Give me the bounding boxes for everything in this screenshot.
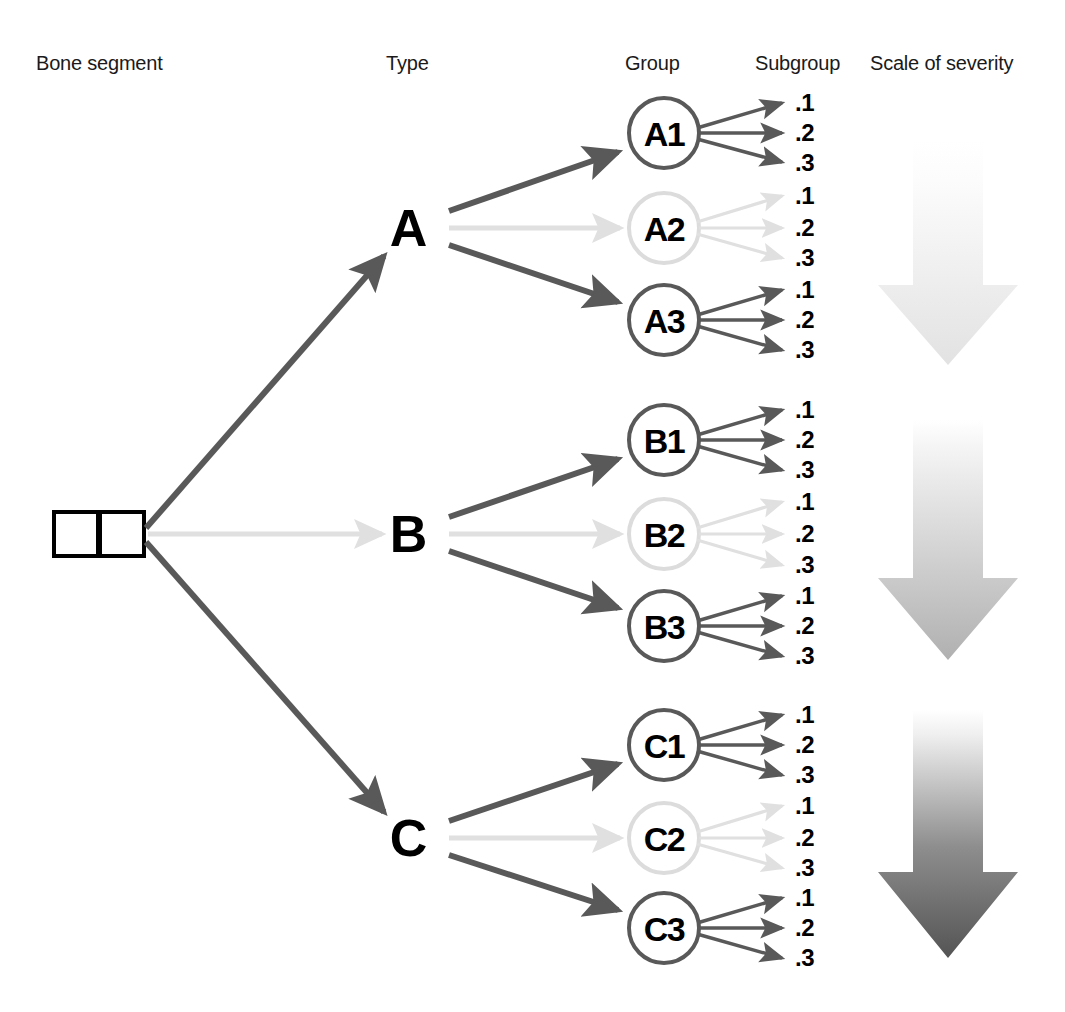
subgroup-label-c2-2[interactable]: .2: [795, 824, 814, 852]
subgroup-label-a3-3[interactable]: .3: [795, 336, 814, 364]
group-label-c3[interactable]: C3: [644, 910, 684, 949]
trunk-arrow-to-type-c: [146, 542, 384, 812]
subgroup-label-b3-2[interactable]: .2: [795, 612, 814, 640]
severity-arrows: [878, 140, 1018, 958]
subgroup-label-a2-1[interactable]: .1: [795, 182, 814, 210]
arrow-b3-to-sub3: [697, 632, 782, 656]
subgroup-arrows-b2: [697, 502, 782, 565]
subgroup-label-a3-1[interactable]: .1: [795, 276, 814, 304]
type-label-b[interactable]: B: [390, 504, 427, 564]
group-label-c1[interactable]: C1: [644, 727, 684, 766]
subgroup-label-b3-3[interactable]: .3: [795, 642, 814, 670]
subgroup-arrows-a3: [697, 290, 782, 350]
subgroup-label-b1-3[interactable]: .3: [795, 456, 814, 484]
subgroup-label-c3-1[interactable]: .1: [795, 884, 814, 912]
column-header-subgroup: Subgroup: [755, 52, 840, 75]
subgroup-arrows-c3: [697, 898, 782, 958]
diagram-vector-layer: [0, 0, 1065, 1012]
column-header-bone-segment: Bone segment: [36, 52, 163, 75]
subgroup-label-b1-1[interactable]: .1: [795, 396, 814, 424]
subgroup-label-c1-3[interactable]: .3: [795, 761, 814, 789]
subgroup-label-c1-2[interactable]: .2: [795, 731, 814, 759]
subgroup-label-a1-2[interactable]: .2: [795, 119, 814, 147]
bone-segment-square-left: [54, 512, 98, 556]
type-c-group-arrows: [449, 764, 620, 910]
subgroup-arrows-a1: [697, 103, 782, 162]
arrow-a-to-a1: [449, 152, 618, 211]
arrow-b1-to-sub1: [697, 410, 782, 435]
arrow-b2-to-sub3: [697, 540, 782, 565]
trunk-arrows: [146, 256, 384, 812]
subgroup-label-b1-2[interactable]: .2: [795, 426, 814, 454]
arrow-b2-to-sub1: [697, 502, 782, 528]
arrow-a2-to-sub3: [697, 234, 782, 258]
bone-segment-squares: [54, 512, 144, 556]
group-label-a1[interactable]: A1: [644, 115, 684, 154]
subgroup-arrows-c2: [697, 806, 782, 868]
arrow-c2-to-sub1: [697, 806, 782, 832]
column-header-type: Type: [386, 52, 429, 75]
type-b-group-arrows: [449, 459, 620, 608]
arrow-c2-to-sub3: [697, 844, 782, 868]
subgroup-label-c3-2[interactable]: .2: [795, 914, 814, 942]
subgroup-label-b2-3[interactable]: .3: [795, 551, 814, 579]
arrow-b-to-b3: [449, 551, 618, 608]
arrow-c1-to-sub3: [697, 751, 782, 775]
type-a-group-arrows: [449, 152, 620, 302]
subgroup-arrows-b3: [697, 596, 782, 656]
group-label-b1[interactable]: B1: [644, 422, 684, 461]
arrow-c-to-c3: [449, 855, 618, 910]
arrow-c-to-c1: [449, 764, 618, 821]
type-label-a[interactable]: A: [390, 198, 427, 258]
subgroup-label-c2-3[interactable]: .3: [795, 854, 814, 882]
column-header-group: Group: [625, 52, 680, 75]
subgroup-label-c1-1[interactable]: .1: [795, 701, 814, 729]
group-label-b3[interactable]: B3: [644, 608, 684, 647]
subgroup-label-c3-3[interactable]: .3: [795, 944, 814, 972]
subgroup-arrows-b1: [697, 410, 782, 470]
subgroup-label-c2-1[interactable]: .1: [795, 792, 814, 820]
arrow-a3-to-sub1: [697, 290, 782, 315]
arrow-b-to-b1: [449, 459, 618, 517]
group-label-a3[interactable]: A3: [644, 302, 684, 341]
diagram-canvas: Bone segment Type Group Subgroup Scale o…: [0, 0, 1065, 1012]
arrow-b3-to-sub1: [697, 596, 782, 621]
subgroup-label-a1-1[interactable]: .1: [795, 89, 814, 117]
type-label-c[interactable]: C: [390, 808, 427, 868]
subgroup-label-a1-3[interactable]: .3: [795, 149, 814, 177]
arrow-a1-to-sub3: [697, 139, 782, 162]
subgroup-arrows-c1: [697, 715, 782, 775]
subgroup-label-a2-2[interactable]: .2: [795, 214, 814, 242]
group-label-a2[interactable]: A2: [644, 210, 684, 249]
bone-segment-square-right: [100, 512, 144, 556]
arrow-b1-to-sub3: [697, 446, 782, 470]
group-label-c2[interactable]: C2: [644, 820, 684, 859]
subgroup-label-a3-2[interactable]: .2: [795, 306, 814, 334]
arrow-a2-to-sub1: [697, 196, 782, 222]
trunk-arrow-to-type-a: [146, 256, 384, 528]
subgroup-label-b2-1[interactable]: .1: [795, 488, 814, 516]
subgroup-label-b3-1[interactable]: .1: [795, 582, 814, 610]
subgroup-arrows-a2: [697, 196, 782, 258]
arrow-c3-to-sub3: [697, 934, 782, 958]
column-header-scale-of-severity: Scale of severity: [870, 52, 1013, 75]
subgroup-label-a2-3[interactable]: .3: [795, 244, 814, 272]
severity-arrow-c: [878, 710, 1018, 958]
arrow-c1-to-sub1: [697, 715, 782, 740]
arrow-a-to-a3: [449, 245, 618, 302]
arrow-a3-to-sub3: [697, 326, 782, 350]
group-label-b2[interactable]: B2: [644, 516, 684, 555]
severity-arrow-b: [878, 420, 1018, 660]
arrow-c3-to-sub1: [697, 898, 782, 923]
subgroup-label-b2-2[interactable]: .2: [795, 520, 814, 548]
severity-arrow-a: [878, 140, 1018, 365]
arrow-a1-to-sub1: [697, 103, 782, 128]
